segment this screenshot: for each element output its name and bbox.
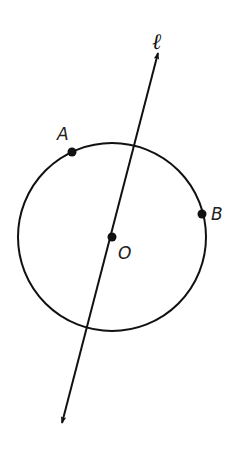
geometry-figure: ℓ A B O	[0, 0, 241, 453]
point-label-b: B	[211, 204, 223, 224]
point-label-a: A	[56, 124, 69, 144]
line-label-l: ℓ	[152, 29, 162, 54]
point-b	[198, 210, 207, 219]
point-a	[68, 148, 77, 157]
point-o	[108, 233, 117, 242]
point-label-o: O	[118, 243, 131, 263]
